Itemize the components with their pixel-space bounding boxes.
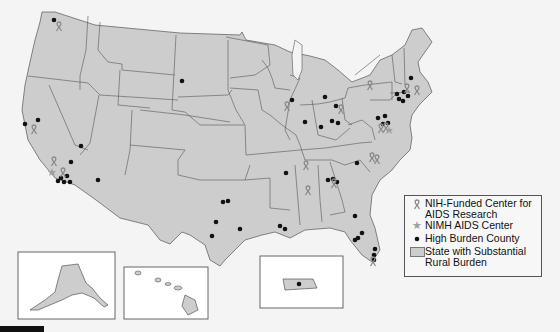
legend-item-high-burden: High Burden County	[409, 233, 537, 244]
puerto-rico-inset	[260, 256, 343, 308]
star-icon: ★	[409, 220, 425, 231]
dot-icon	[409, 233, 425, 244]
swatch-icon	[409, 246, 425, 257]
map-legend: NIH-Funded Center for AIDS Research ★ NI…	[404, 195, 542, 277]
legend-item-cfar: NIH-Funded Center for AIDS Research	[409, 198, 537, 220]
alaska-inset	[18, 252, 115, 319]
bottom-bar	[0, 326, 44, 332]
us-map	[0, 0, 560, 332]
hawaii-inset	[124, 267, 208, 319]
ribbon-icon	[409, 198, 425, 209]
legend-item-rural: State with Substantial Rural Burden	[409, 246, 537, 268]
legend-item-nimh: ★ NIMH AIDS Center	[409, 220, 537, 231]
contiguous-us	[22, 12, 432, 266]
